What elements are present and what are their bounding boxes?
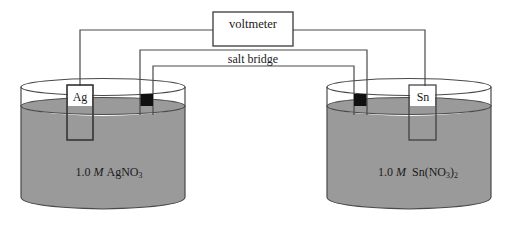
diagram-canvas <box>0 0 506 226</box>
right-solution-label: 1.0 M Sn(NO3)2 <box>338 166 498 180</box>
left-salt-bridge-plug <box>141 94 154 106</box>
right-salt-bridge-plug <box>354 94 367 106</box>
left-solution-formula-subscript: 3 <box>139 171 143 180</box>
left-liquid-surface <box>21 98 185 115</box>
left-solution-label: 1.0 M AgNO3 <box>32 166 186 180</box>
left-beaker-rim <box>21 79 185 96</box>
right-solution-concentration: 1.0 <box>378 165 393 179</box>
salt-bridge-label: salt bridge <box>195 53 311 65</box>
ag-electrode-label: Ag <box>67 91 93 103</box>
sn-electrode-label: Sn <box>409 91 437 103</box>
electrochemical-cell-diagram: voltmeter salt bridge Ag Sn 1.0 M AgNO3 … <box>0 0 506 226</box>
right-solution-molarity-symbol: M <box>396 165 406 179</box>
left-solution-formula-base: AgNO <box>107 165 139 179</box>
right-solution-formula-prefix: Sn(NO <box>412 165 446 179</box>
left-solution-fill <box>21 104 185 209</box>
left-solution-molarity-symbol: M <box>94 165 104 179</box>
voltmeter-label: voltmeter <box>213 18 293 31</box>
left-beaker <box>21 79 185 210</box>
left-solution-concentration: 1.0 <box>76 165 91 179</box>
right-solution-formula-subscript-2: 2 <box>454 171 458 180</box>
